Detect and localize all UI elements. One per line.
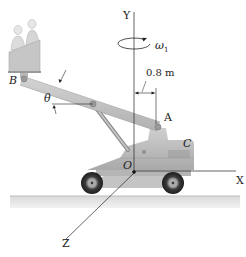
ground	[10, 196, 240, 208]
omega-symbol: ω	[155, 39, 164, 52]
wheel-left	[81, 172, 103, 194]
boom	[20, 76, 160, 131]
angle-theta-label: θ	[44, 93, 51, 104]
y-axis-label: Y	[123, 10, 130, 21]
point-b-label: B	[9, 75, 17, 86]
diagram-figure	[0, 0, 246, 257]
pin-a	[155, 124, 161, 130]
diagram-stage: Y X Z O A B C θ ω1 0.8 m	[0, 0, 246, 257]
origin-point	[132, 170, 136, 174]
pin-b	[21, 76, 27, 82]
truck-body-c	[88, 128, 194, 170]
dimension-label: 0.8 m	[146, 68, 175, 78]
point-c-label: C	[183, 138, 191, 149]
origin-label: O	[123, 160, 132, 171]
x-axis-label: X	[236, 175, 244, 186]
omega-label: ω1	[155, 40, 168, 54]
worker-basket	[8, 20, 41, 83]
point-a-label: A	[164, 112, 172, 123]
z-axis-label: Z	[62, 238, 70, 249]
wheel-right	[162, 172, 184, 194]
omega-subscript: 1	[164, 46, 168, 54]
